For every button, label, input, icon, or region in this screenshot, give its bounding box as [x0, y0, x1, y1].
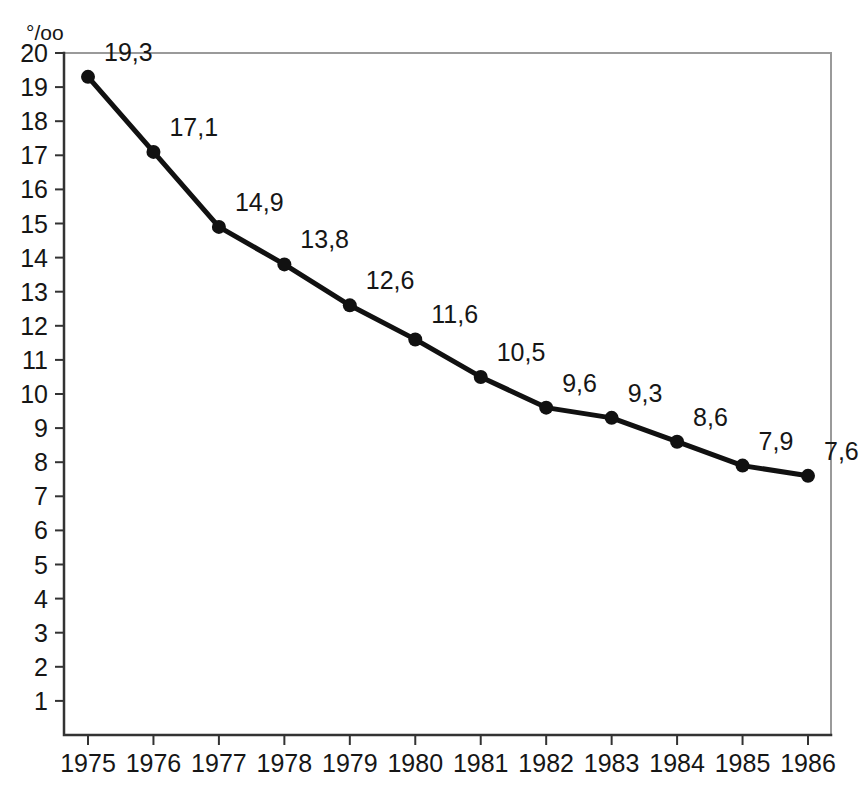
data-point-marker	[212, 220, 226, 234]
data-point-marker	[670, 435, 684, 449]
data-point-label: 17,1	[169, 113, 218, 141]
x-tick-label: 1982	[518, 749, 574, 777]
y-tick-label: 19	[20, 73, 48, 101]
y-tick-label: 10	[20, 380, 48, 408]
data-point-marker	[146, 145, 160, 159]
y-tick-label: 14	[20, 244, 48, 272]
data-point-label: 10,5	[497, 338, 546, 366]
line-chart: 2019181716151413121110987654321 19751976…	[0, 0, 860, 788]
data-point-labels: 19,317,114,913,812,611,610,59,69,38,67,9…	[104, 38, 859, 465]
data-point-label: 7,9	[759, 427, 794, 455]
data-point-marker	[474, 370, 488, 384]
data-point-marker	[81, 70, 95, 84]
y-tick-label: 4	[34, 585, 48, 613]
y-tick-label: 5	[34, 551, 48, 579]
data-point-label: 7,6	[824, 437, 859, 465]
y-tick-label: 13	[20, 278, 48, 306]
data-point-label: 9,6	[562, 369, 597, 397]
data-point-marker	[605, 411, 619, 425]
y-tick-label: 16	[20, 175, 48, 203]
x-tick-label: 1986	[780, 749, 836, 777]
y-tick-label: 15	[20, 210, 48, 238]
data-point-label: 13,8	[300, 225, 349, 253]
plot-frame	[64, 53, 831, 735]
data-point-marker	[736, 459, 750, 473]
y-tick-label: 2	[34, 653, 48, 681]
y-tick-label: 9	[34, 414, 48, 442]
x-tick-label: 1983	[584, 749, 640, 777]
data-point-marker	[408, 332, 422, 346]
chart-canvas: 2019181716151413121110987654321 19751976…	[0, 0, 860, 788]
y-axis-ticks: 2019181716151413121110987654321	[20, 39, 64, 715]
y-tick-label: 8	[34, 448, 48, 476]
y-tick-label: 1	[34, 687, 48, 715]
x-axis-ticks: 1975197619771978197919801981198219831984…	[60, 735, 836, 777]
plot-axes	[64, 53, 831, 735]
x-tick-label: 1985	[715, 749, 771, 777]
x-tick-label: 1978	[257, 749, 313, 777]
data-point-label: 19,3	[104, 38, 153, 66]
y-tick-label: 7	[34, 482, 48, 510]
data-point-label: 12,6	[366, 266, 415, 294]
x-tick-label: 1977	[191, 749, 247, 777]
y-tick-label: 6	[34, 516, 48, 544]
x-tick-label: 1980	[387, 749, 443, 777]
x-tick-label: 1976	[126, 749, 182, 777]
data-point-label: 9,3	[628, 379, 663, 407]
y-tick-label: 3	[34, 619, 48, 647]
data-point-marker	[343, 298, 357, 312]
x-tick-label: 1981	[453, 749, 509, 777]
data-point-label: 11,6	[431, 300, 478, 328]
data-point-marker	[801, 469, 815, 483]
y-tick-label: 18	[20, 107, 48, 135]
x-tick-label: 1975	[60, 749, 116, 777]
x-tick-label: 1984	[649, 749, 705, 777]
data-point-marker	[277, 257, 291, 271]
data-point-marker	[539, 401, 553, 415]
data-point-label: 8,6	[693, 403, 728, 431]
y-axis-unit-label: °/oo	[26, 21, 64, 44]
y-tick-label: 12	[20, 312, 48, 340]
y-tick-label: 11	[22, 346, 48, 374]
x-tick-label: 1979	[322, 749, 378, 777]
data-point-label: 14,9	[235, 188, 284, 216]
y-tick-label: 17	[20, 141, 48, 169]
